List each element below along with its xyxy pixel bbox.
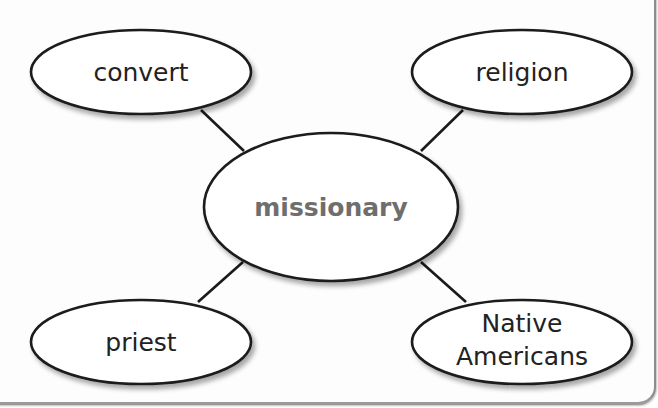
center-label-missionary: missionary [254, 193, 407, 222]
node-label-priest: priest [105, 328, 176, 357]
node-label-convert: convert [93, 58, 188, 87]
word-web-diagram: convert religion missionary priest Nativ… [0, 0, 658, 408]
node-label-religion: religion [476, 58, 569, 87]
node-convert: convert [31, 30, 251, 114]
node-center-missionary: missionary [204, 133, 458, 281]
node-label-americans: Americans [456, 342, 588, 371]
edge-convert [201, 110, 244, 151]
node-native-americans: Native Americans [412, 300, 632, 384]
node-religion: religion [412, 30, 632, 114]
edge-native-americans [421, 262, 466, 302]
node-priest: priest [31, 300, 251, 384]
node-label-native: Native [482, 309, 563, 338]
edge-religion [421, 110, 463, 151]
edge-priest [198, 262, 243, 302]
